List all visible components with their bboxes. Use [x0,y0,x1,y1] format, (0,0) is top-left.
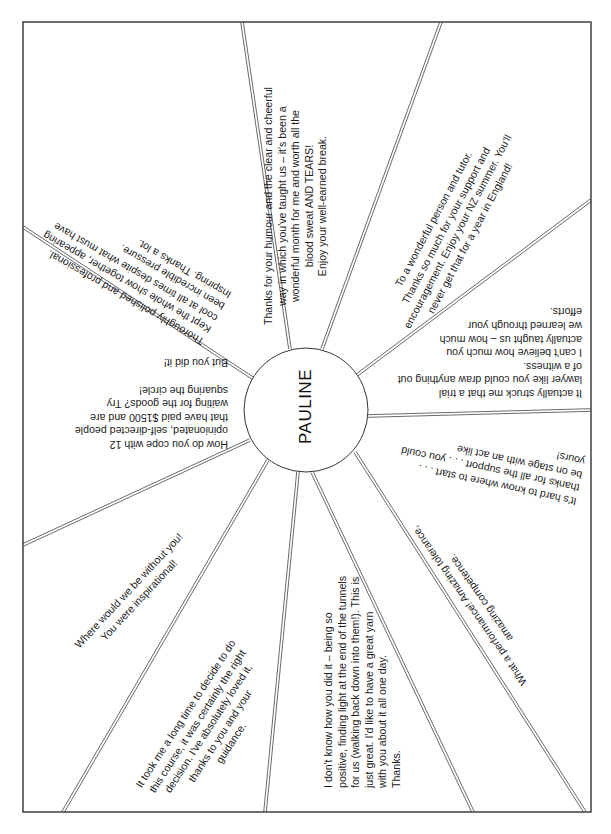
message-line: way in which you've taught us – it's bee… [276,87,290,325]
message-line: with you about it all one day. [376,576,390,788]
message-right-upper: It actually struck me that a triallawyer… [398,305,582,400]
message-line: opinionated, self-directed people [75,424,228,438]
message-line: actually taught us – how much [398,332,582,346]
message-line: waiting for the goods? Try [75,397,228,411]
message-line: lawyer like you could draw anything out [398,373,582,387]
message-line: positive, finding light at the end of th… [336,576,350,788]
message-line: blood sweat AND TEARS! [303,87,317,325]
message-line: efforts. [398,305,582,319]
message-line: I can't believe how much you [398,346,582,360]
message-line: How do you cope with 12 [75,437,228,451]
message-bottom-center: I don't know how you did it – being sopo… [322,576,404,788]
message-top-center: Thanks for your humour and the clear and… [262,87,330,325]
message-line: of a witness. [398,359,582,373]
message-line: wonderful month for me and worth all the [289,87,303,325]
message-line: I don't know how you did it – being so [322,576,336,788]
message-line: squaring the circle! [75,383,228,397]
message-line: Thanks. [390,576,404,788]
message-line: that have paid $1500 and are [75,410,228,424]
message-line: just great. I'd like to have a great yar… [363,576,377,788]
message-left-middle: How do you cope with 12opinionated, self… [75,356,228,451]
message-line: for us (walking back down into them!). T… [349,576,363,788]
message-line: It actually struck me that a trial [398,386,582,400]
message-line: Enjoy your well-earned break. [316,87,330,325]
message-line: Thanks for your humour and the clear and… [262,87,276,325]
message-line: we learned through your [398,318,582,332]
message-line [75,369,228,383]
center-name-label: PAULINE [296,369,316,444]
message-line: But you did it! [75,356,228,370]
